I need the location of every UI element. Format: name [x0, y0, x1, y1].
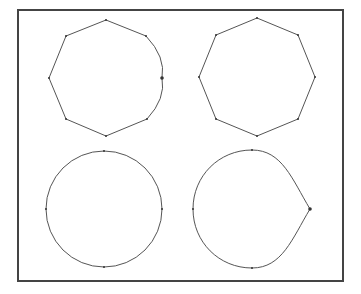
teardrop-shape [193, 150, 310, 268]
vertex-point [161, 208, 163, 210]
diagram-canvas [0, 0, 361, 294]
vertex-point [160, 76, 164, 80]
vertex-point [251, 149, 253, 151]
vertex-point [308, 207, 312, 211]
vertex-point [251, 267, 253, 269]
vertex-point [145, 35, 147, 37]
vertex-point [105, 135, 107, 137]
vertex-point [65, 35, 67, 37]
shapes-group [45, 17, 316, 269]
vertex-point [103, 266, 105, 268]
vertex-point [297, 34, 299, 36]
vertex-point [198, 76, 200, 78]
vertex-point [146, 118, 148, 120]
vertex-point [215, 34, 217, 36]
vertex-point [314, 76, 316, 78]
vertex-point [215, 118, 217, 120]
vertex-point [45, 208, 47, 210]
vertex-point [105, 19, 107, 21]
vertex-point [65, 118, 67, 120]
vertex-point [256, 135, 258, 137]
circle-shape [46, 151, 162, 267]
frame-border [18, 10, 343, 281]
vertex-point [297, 118, 299, 120]
vertex-point [192, 208, 194, 210]
vertex-point [48, 77, 50, 79]
vertex-point [256, 17, 258, 19]
vertex-point [103, 150, 105, 152]
